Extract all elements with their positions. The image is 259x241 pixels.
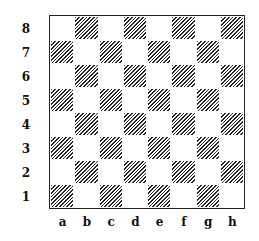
file-label-a: a (55, 215, 71, 229)
square-g6 (196, 64, 220, 88)
square-h3 (220, 136, 244, 160)
square-b3 (74, 136, 98, 160)
square-e3 (148, 137, 170, 159)
square-c5 (100, 89, 122, 111)
square-g1 (197, 185, 219, 207)
square-a1 (51, 185, 73, 207)
square-f7 (171, 40, 195, 64)
square-d2 (124, 161, 146, 183)
square-e1 (148, 185, 170, 207)
square-a7 (51, 41, 73, 63)
rank-label-1: 1 (18, 190, 34, 204)
square-g3 (197, 137, 219, 159)
square-f1 (171, 184, 195, 208)
square-e7 (148, 41, 170, 63)
square-d3 (123, 136, 147, 160)
square-e2 (147, 160, 171, 184)
square-c1 (100, 185, 122, 207)
rank-label-6: 6 (18, 70, 34, 84)
square-a8 (50, 16, 74, 40)
square-g5 (197, 89, 219, 111)
file-label-c: c (103, 215, 119, 229)
rank-label-5: 5 (18, 94, 34, 108)
square-a5 (51, 89, 73, 111)
square-e6 (147, 64, 171, 88)
square-b4 (75, 113, 97, 135)
square-b1 (74, 184, 98, 208)
square-a6 (50, 64, 74, 88)
file-label-g: g (200, 215, 216, 229)
square-e5 (148, 89, 170, 111)
square-h1 (220, 184, 244, 208)
square-c3 (100, 137, 122, 159)
square-f5 (171, 88, 195, 112)
rank-label-2: 2 (18, 166, 34, 180)
square-h6 (221, 65, 243, 87)
square-h5 (220, 88, 244, 112)
square-f4 (172, 113, 194, 135)
square-f2 (172, 161, 194, 183)
square-a3 (51, 137, 73, 159)
square-c4 (99, 112, 123, 136)
square-b2 (75, 161, 97, 183)
square-g8 (196, 16, 220, 40)
file-label-b: b (79, 215, 95, 229)
square-a4 (50, 112, 74, 136)
rank-label-8: 8 (18, 22, 34, 36)
rank-label-4: 4 (18, 118, 34, 132)
file-label-d: d (127, 215, 143, 229)
square-d4 (124, 113, 146, 135)
square-a2 (50, 160, 74, 184)
square-g2 (196, 160, 220, 184)
square-f3 (171, 136, 195, 160)
square-g7 (197, 41, 219, 63)
square-e8 (147, 16, 171, 40)
square-b5 (74, 88, 98, 112)
square-h7 (220, 40, 244, 64)
square-b7 (74, 40, 98, 64)
square-d5 (123, 88, 147, 112)
square-b8 (75, 17, 97, 39)
file-label-f: f (176, 215, 192, 229)
square-f8 (172, 17, 194, 39)
square-c7 (100, 41, 122, 63)
square-d7 (123, 40, 147, 64)
square-c2 (99, 160, 123, 184)
square-e4 (147, 112, 171, 136)
file-label-e: e (152, 215, 168, 229)
square-b6 (75, 65, 97, 87)
rank-label-7: 7 (18, 46, 34, 60)
square-d6 (124, 65, 146, 87)
square-h8 (221, 17, 243, 39)
square-h4 (221, 113, 243, 135)
square-c6 (99, 64, 123, 88)
file-label-h: h (224, 215, 240, 229)
square-f6 (172, 65, 194, 87)
square-g4 (196, 112, 220, 136)
square-h2 (221, 161, 243, 183)
square-c8 (99, 16, 123, 40)
chess-board (49, 15, 245, 209)
square-d1 (123, 184, 147, 208)
rank-label-3: 3 (18, 142, 34, 156)
square-d8 (124, 17, 146, 39)
